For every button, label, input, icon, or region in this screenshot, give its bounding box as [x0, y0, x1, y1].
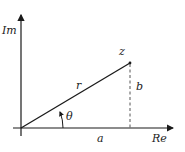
modulus-label: r: [76, 79, 82, 92]
angle-arc-icon: [60, 112, 63, 128]
real-axis-label: Re: [151, 132, 167, 145]
angle-label: θ: [66, 110, 73, 123]
real-part-label: a: [97, 132, 104, 145]
complex-plane-diagram: Im Re z r b θ a: [0, 0, 185, 152]
imaginary-part-label: b: [136, 80, 143, 93]
point-z: [129, 62, 132, 65]
imaginary-axis-label: Im: [1, 24, 17, 37]
modulus-vector: [21, 63, 130, 128]
point-label: z: [118, 45, 125, 58]
